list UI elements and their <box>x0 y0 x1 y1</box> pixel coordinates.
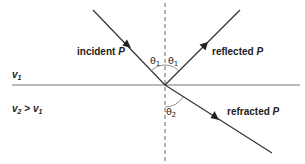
theta2-label: θ2 <box>166 107 176 119</box>
medium1-velocity-label: v1 <box>12 70 21 81</box>
refracted-label: refracted P <box>227 107 279 117</box>
diagram-canvas <box>0 0 305 164</box>
medium2-velocity-label: v2 > v1 <box>12 104 42 115</box>
refracted-arrow-icon <box>211 111 220 120</box>
theta1-left-label: θ1 <box>150 56 160 68</box>
reflected-label: reflected P <box>212 47 263 57</box>
theta1-right-label: θ1 <box>168 56 178 68</box>
incident-label: incident P <box>77 47 125 57</box>
